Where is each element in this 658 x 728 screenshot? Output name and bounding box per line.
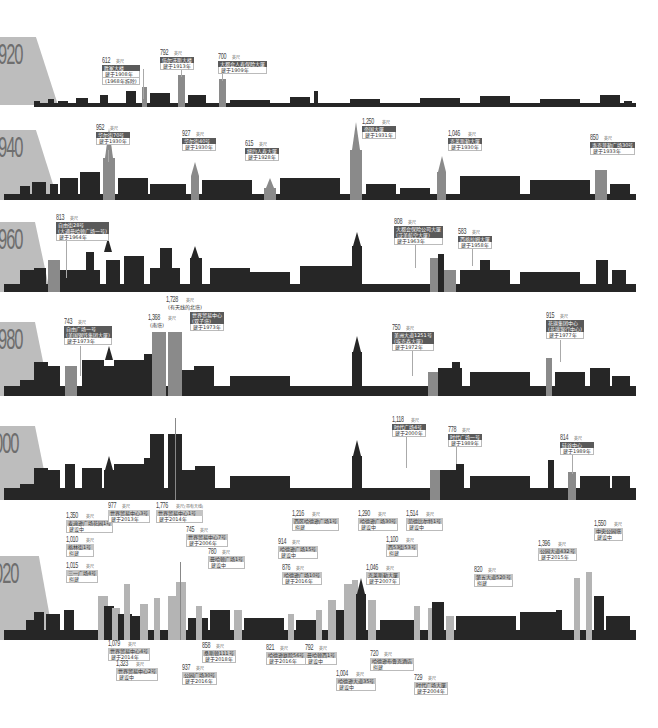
building-label: 778英尺时代广场一号建于1989年 xyxy=(448,426,482,447)
building-label: 858英尺桑斯顿111号建于2018年 xyxy=(202,642,236,663)
row-2020: 2020 xyxy=(0,500,658,640)
building-label: 820英尺第五大道520号拟建 xyxy=(474,566,513,587)
building-label: 1,728英尺(有天线的北塔) xyxy=(166,296,204,310)
building-label: 615英尺纽约人寿大厦建于1928年 xyxy=(245,140,279,161)
building-label: 876英尺哈德逊广场10号建于2016年 xyxy=(282,564,322,585)
building-label: 1,216英尺西区哈德逊广场1号拟建 xyxy=(292,510,339,531)
building-label: 750英尺美洲大道1251号(埃克森大厦)建于1972年 xyxy=(392,324,434,351)
building-label: 745英尺世界贸易中心7号建于2006年 xyxy=(186,526,228,547)
row-1920: 1920 612英尺胜家大楼建于1908年(1968年拆除) 792英尺伍尔沃斯… xyxy=(0,35,658,107)
building-label: 720英尺哈德逊布鲁克酒店拟建 xyxy=(370,650,414,671)
building-label: 1,550英尺中央公园塔建设中 xyxy=(594,520,623,541)
building-label: 813英尺自由街28号(大通曼哈顿广场一号)建于1964年 xyxy=(56,214,109,241)
building-label: 952英尺华尔街70号建于1930年 xyxy=(96,124,130,145)
building-label: 937英尺公园广场30号建于2016年 xyxy=(182,664,217,685)
skyline-1920 xyxy=(0,35,640,107)
building-label: 1,046英尺克莱斯勒大厦建于1930年 xyxy=(448,130,482,151)
building-label: 1,368英尺(南塔) xyxy=(148,314,176,328)
building-label: 700英尺大都会人寿保险大厦建于1909年 xyxy=(218,53,267,74)
building-label: 792英尺伍尔沃斯大楼建于1913年 xyxy=(160,49,194,70)
building-label: 1,514英尺范德比尔特1号建设中 xyxy=(406,510,443,531)
building-label: 1,776英尺(带有天线)世界贸易中心1号建于2014年 xyxy=(156,502,203,523)
building-label: 743英尺自由广场一号(美国钢铁集团大厦)建于1973年 xyxy=(64,318,112,345)
building-label: 1,015英尺三一广场4号拟建 xyxy=(66,562,98,583)
row-2020-bottom-labels: 1,079英尺世界贸易中心4号建于2014年 1,323英尺世界贸易中心2号建设… xyxy=(0,640,658,728)
building-label: 1,396英尺公园大道432号建于2015年 xyxy=(538,540,577,561)
building-label: 814英尺硅谷中心建于1989年 xyxy=(560,434,594,455)
building-label: 1,250英尺帝国大厦建于1931年 xyxy=(362,118,396,139)
building-label: 914英尺哈德逊广场15号建设中 xyxy=(278,538,318,559)
building-label: 583英尺西格拉姆大厦建于1958年 xyxy=(458,228,492,249)
building-label: 780英尺曼哈顿广场1号建设中 xyxy=(208,548,245,569)
building-label: 612英尺胜家大楼建于1908年(1968年拆除) xyxy=(102,57,140,85)
building-label: 821英尺哈德逊庭院56号建于2016年 xyxy=(266,644,306,665)
building-label: 977英尺世界贸易中心3号建于2013年 xyxy=(108,502,150,523)
row-2000: 2000 1,118英尺时代广场4号建于2000年 778英尺时代广场一号建于1… xyxy=(0,396,658,500)
building-label: 792英尺曼哈顿西1号建设中 xyxy=(305,644,337,665)
building-label: 927英尺华尔街40号建于1930年 xyxy=(182,130,216,151)
building-label: 世界贸易中心(双子塔)建于1973年 xyxy=(190,312,224,331)
building-label: 1,010英尺格林街1号拟建 xyxy=(66,536,94,557)
building-label: 1,290英尺哈德逊广场30号建设中 xyxy=(358,510,398,531)
building-label: 1,323英尺世界贸易中心2号建设中 xyxy=(116,660,158,681)
building-label: 1,046英尺克莱斯勒大厦建于2007年 xyxy=(366,564,400,585)
skyline-2000 xyxy=(0,396,640,500)
building-label: 1,350英尺麦迪逊广场花园1号建设中 xyxy=(66,512,113,533)
row-1960: 1960 813英尺自由街28号(大通曼哈顿广场一号)建于1964年 808英尺… xyxy=(0,214,658,292)
building-label: 729英尺时代广场大厦建于2004年 xyxy=(414,674,448,695)
row-1980: 1980 743英尺自由广场一号(美国钢铁集团大厦)建于1973年 1,368英… xyxy=(0,292,658,396)
building-label: 1,118英尺时代广场4号建于2000年 xyxy=(392,416,426,437)
building-label: 1,004英尺哈德逊大道35号建设中 xyxy=(336,670,376,691)
building-label: 1,079英尺世界贸易中心4号建于2014年 xyxy=(108,640,150,661)
building-label: 915英尺花旗集团中心(花旗银行中心)建于1977年 xyxy=(546,312,584,339)
building-label: 808英尺大都会保险公司大厦(泛美航空大厦)建于1963年 xyxy=(394,218,443,245)
row-1940: 1940 952英尺华尔街70号建于1930年 927英尺华尔街40号建于193… xyxy=(0,118,658,200)
building-label: 850英尺洛克菲勒广场30号建于1933年 xyxy=(590,134,635,155)
building-label: 1,100英尺西53街53号拟建 xyxy=(386,536,418,557)
